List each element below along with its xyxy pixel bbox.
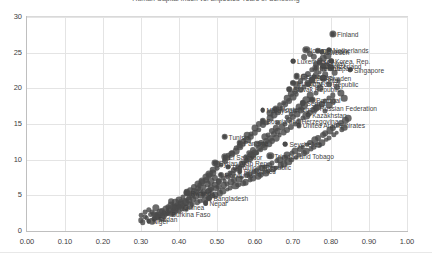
- data-point: [312, 104, 319, 111]
- data-point: [191, 188, 197, 194]
- data-point-labeled: [310, 77, 315, 82]
- data-point: [207, 172, 213, 178]
- data-point: [324, 137, 329, 142]
- data-point: [155, 215, 161, 221]
- data-point: [275, 128, 282, 135]
- data-point-label: Portugal: [316, 96, 341, 103]
- data-point: [146, 207, 151, 212]
- data-point-labeled: [268, 154, 273, 159]
- data-point: [239, 175, 244, 180]
- data-point: [208, 184, 214, 190]
- data-point: [314, 103, 321, 110]
- data-point: [228, 178, 235, 185]
- data-point: [197, 183, 202, 188]
- data-point: [234, 167, 239, 172]
- gridline-vertical: [217, 17, 218, 231]
- data-point-labeled: [295, 74, 300, 79]
- data-point: [172, 205, 179, 212]
- data-point: [261, 143, 268, 150]
- data-point: [297, 146, 303, 152]
- data-point: [226, 164, 231, 169]
- data-point: [283, 141, 288, 146]
- data-point-label: Estonia: [316, 76, 338, 83]
- data-point: [230, 150, 235, 155]
- data-point: [244, 132, 251, 139]
- data-point: [300, 116, 305, 121]
- data-point: [277, 133, 282, 138]
- data-point: [262, 169, 269, 176]
- data-point: [257, 171, 263, 177]
- data-point: [226, 153, 231, 158]
- data-point-labeled: [165, 212, 170, 217]
- data-point-labeled: [310, 97, 315, 102]
- data-point: [235, 182, 241, 188]
- data-point: [161, 212, 167, 218]
- data-point-labeled: [219, 172, 224, 177]
- data-point: [221, 182, 227, 188]
- data-point: [272, 105, 279, 112]
- data-point-labeled: [321, 64, 326, 69]
- data-point: [267, 115, 274, 122]
- data-point: [220, 176, 225, 181]
- data-point: [210, 169, 217, 176]
- data-point: [203, 177, 209, 183]
- data-point: [293, 110, 300, 117]
- data-point: [320, 75, 327, 82]
- data-point: [229, 150, 236, 157]
- data-point-label: Germany: [301, 73, 328, 80]
- data-point-label: Ireland: [320, 65, 340, 72]
- data-point-label: Seychelles: [289, 140, 321, 147]
- data-point: [246, 171, 252, 177]
- data-point: [323, 99, 328, 104]
- data-point: [315, 135, 321, 141]
- data-point: [165, 209, 171, 215]
- data-point: [273, 135, 280, 142]
- data-point: [295, 103, 302, 110]
- y-axis-tick-label: 25: [14, 49, 22, 57]
- data-point-label: Burkina Faso: [172, 210, 211, 217]
- data-point: [268, 136, 273, 141]
- gridline-vertical: [65, 17, 66, 231]
- data-point-labeled: [304, 48, 309, 53]
- data-point: [273, 125, 279, 131]
- data-point-labeled: [146, 219, 151, 224]
- data-point: [322, 71, 328, 77]
- x-axis-tick-label: 0.20: [96, 238, 111, 246]
- data-point: [242, 178, 249, 185]
- data-point: [256, 145, 262, 151]
- data-point: [310, 106, 317, 113]
- data-point: [274, 165, 279, 170]
- data-point: [241, 138, 247, 144]
- data-point: [205, 188, 211, 194]
- data-point: [345, 115, 352, 122]
- data-point: [301, 74, 308, 81]
- data-point: [265, 140, 272, 147]
- data-point: [181, 204, 188, 211]
- bottom-divider: [0, 252, 432, 253]
- data-point: [238, 161, 245, 168]
- data-point: [243, 154, 248, 159]
- data-point: [303, 148, 310, 155]
- data-point: [269, 138, 275, 144]
- data-point: [142, 214, 147, 219]
- data-point: [309, 146, 314, 151]
- data-point: [284, 95, 291, 102]
- chart-title: Human Capital Index vs. Expected Years o…: [0, 0, 432, 3]
- gridline-vertical: [293, 17, 294, 231]
- data-point: [218, 163, 223, 168]
- y-axis-tick-label: 5: [18, 192, 22, 200]
- data-point: [165, 207, 170, 212]
- data-point: [303, 96, 310, 103]
- data-point: [240, 180, 246, 186]
- data-point: [228, 186, 233, 191]
- data-point: [272, 107, 277, 112]
- data-point: [248, 134, 254, 140]
- data-point: [301, 150, 307, 156]
- data-point: [299, 99, 305, 105]
- data-point: [155, 212, 162, 219]
- x-axis-tick-label: 0.60: [248, 238, 263, 246]
- data-point-label: Montenegro: [280, 106, 315, 113]
- data-point: [233, 148, 240, 155]
- data-point: [170, 204, 176, 210]
- data-point: [210, 166, 217, 173]
